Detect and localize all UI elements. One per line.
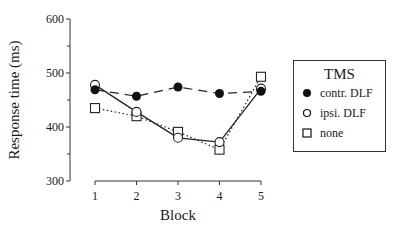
legend-item-none: none <box>302 123 385 143</box>
open-square-marker <box>257 72 266 81</box>
open-circle-marker <box>215 138 224 147</box>
x-tick-label: 4 <box>217 189 223 203</box>
x-axis <box>95 181 261 185</box>
filled-circle-marker <box>257 87 266 96</box>
open-square-marker <box>91 104 100 113</box>
y-tick-label: 600 <box>46 12 64 26</box>
filled-circle-icon <box>302 88 312 98</box>
x-tick-label: 3 <box>175 189 181 203</box>
y-tick-label: 400 <box>46 120 64 134</box>
open-square-icon <box>302 128 312 138</box>
open-circle-icon <box>302 108 312 118</box>
legend-label: contr. DLF <box>320 86 373 101</box>
y-axis-title: Response time (ms) <box>6 40 23 159</box>
series-layer <box>91 72 266 154</box>
x-tick-label: 5 <box>258 189 264 203</box>
x-tick-labels: 1 2 3 4 5 <box>92 189 264 203</box>
legend: TMS contr. DLF ipsi. DLF none <box>293 60 386 152</box>
open-circle-marker <box>174 133 183 142</box>
legend-item-ipsi-dlf: ipsi. DLF <box>302 103 385 123</box>
filled-circle-marker <box>132 92 141 101</box>
y-tick-labels: 600 500 400 300 <box>46 12 64 188</box>
x-tick-label: 2 <box>134 189 140 203</box>
legend-title: TMS <box>294 66 385 83</box>
legend-item-contr-dlf: contr. DLF <box>302 83 385 103</box>
x-tick-label: 1 <box>92 189 98 203</box>
filled-circle-marker <box>215 89 224 98</box>
open-circle-marker <box>132 107 141 116</box>
legend-label: none <box>320 126 343 141</box>
x-axis-title: Block <box>160 207 196 223</box>
filled-circle-marker <box>174 83 183 92</box>
y-tick-label: 300 <box>46 174 64 188</box>
legend-label: ipsi. DLF <box>320 106 366 121</box>
y-tick-label: 500 <box>46 66 64 80</box>
y-axis <box>66 19 70 181</box>
filled-circle-marker <box>91 85 100 94</box>
